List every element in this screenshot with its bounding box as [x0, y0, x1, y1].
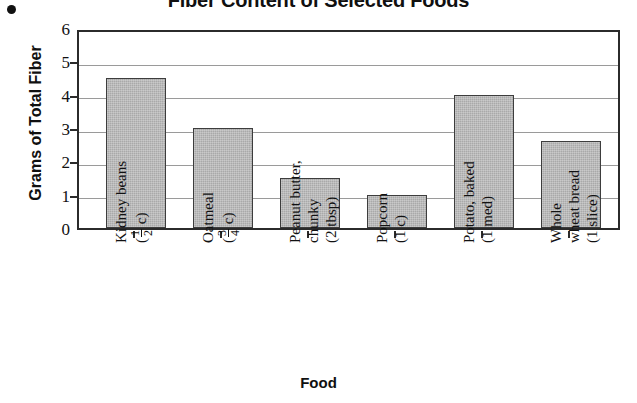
category-line: (2 tbsp): [322, 115, 340, 243]
category-line: Popcorn: [373, 115, 391, 243]
category-line: Oatmeal: [199, 115, 217, 243]
y-tick-label-2: 2: [44, 153, 70, 173]
category-line: Kidney beans: [112, 115, 130, 243]
paren-open: (: [220, 238, 236, 243]
y-tickmark-5: [70, 62, 77, 64]
y-tick-label-3: 3: [44, 120, 70, 140]
category-line: (1 slice): [583, 115, 601, 243]
category-label-popcorn: Popcorn (1 c): [373, 115, 409, 243]
category-label-kidney-beans: Kidney beans (12 c): [112, 115, 155, 243]
category-line: Potato, baked: [460, 115, 478, 243]
y-tick-label-5: 5: [44, 53, 70, 73]
category-line: chunky: [304, 115, 322, 243]
plot-area: [77, 30, 620, 230]
y-axis-title: Grams of Total Fiber: [27, 18, 45, 228]
chart-title: Fiber Content of Selected Foods: [0, 0, 637, 12]
fraction-one-half: 12: [129, 229, 154, 237]
category-label-whole-wheat-bread: Whole wheat bread (1 slice): [547, 115, 601, 243]
unit-text: c): [220, 213, 236, 228]
chart-page: Fiber Content of Selected Foods Grams of…: [0, 0, 637, 403]
category-line: (1 med): [478, 115, 496, 243]
category-line: Peanut butter,: [286, 115, 304, 243]
y-tick-label-1: 1: [44, 187, 70, 207]
category-line: (12 c): [130, 115, 155, 243]
category-label-oatmeal: Oatmeal (34 c): [199, 115, 242, 243]
fraction-three-quarters: 34: [216, 229, 241, 237]
category-line: wheat bread: [565, 115, 583, 243]
category-line: (1 c): [391, 115, 409, 243]
y-tickmark-3: [70, 129, 77, 131]
y-tickmark-4: [70, 96, 77, 98]
y-tick-label-0: 0: [44, 220, 70, 240]
paren-open: (: [133, 238, 149, 243]
y-tickmark-1: [70, 196, 77, 198]
category-line: Whole: [547, 115, 565, 243]
y-tickmark-2: [70, 162, 77, 164]
y-tick-label-4: 4: [44, 87, 70, 107]
y-tick-label-6: 6: [44, 20, 70, 40]
category-label-peanut-butter: Peanut butter, chunky (2 tbsp): [286, 115, 340, 243]
category-line: (34 c): [217, 115, 242, 243]
unit-text: c): [133, 213, 149, 228]
x-axis-title: Food: [0, 374, 637, 391]
gridline-5: [79, 65, 618, 66]
category-label-potato-baked: Potato, baked (1 med): [460, 115, 496, 243]
